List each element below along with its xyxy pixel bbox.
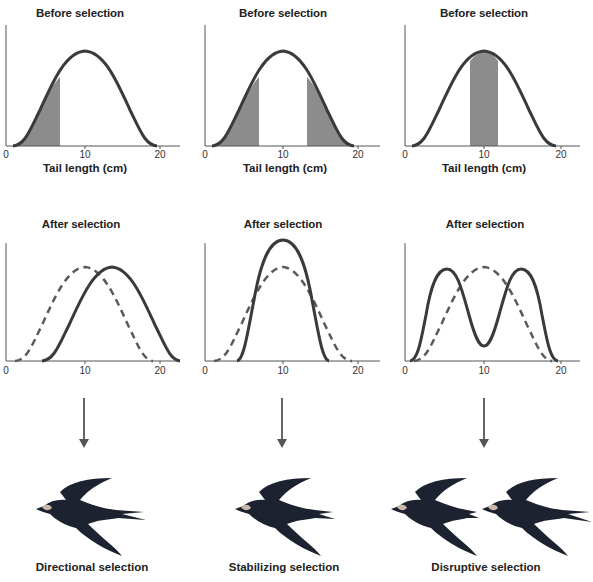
swallow-icon-short-tail [391,478,479,556]
before-chart-stabilizing: 0 10 20 [202,25,380,160]
arrow-down-icon [479,398,489,448]
svg-text:0: 0 [3,365,9,376]
dashed-before-curve [214,267,352,361]
shaded-region-right [307,77,354,146]
selection-diagram: 0 10 20 0 10 20 0 10 20 0 10 20 [0,0,593,582]
after-curve [237,240,329,361]
svg-text:0: 0 [202,365,208,376]
svg-text:20: 20 [352,149,364,160]
swallow-icon [36,478,146,556]
svg-text:20: 20 [555,149,567,160]
after-curve [410,269,558,361]
shaded-region [13,77,60,146]
svg-text:20: 20 [154,365,166,376]
svg-text:10: 10 [478,365,490,376]
svg-text:0: 0 [402,149,408,160]
svg-text:10: 10 [79,149,91,160]
svg-text:10: 10 [478,149,490,160]
svg-text:10: 10 [79,365,91,376]
after-chart-stabilizing: 0 10 20 [202,240,380,376]
after-curve [42,267,180,361]
swallow-icon [235,478,335,556]
svg-text:10: 10 [277,149,289,160]
before-chart-directional: 0 10 20 [3,25,180,160]
swallow-icon-long-tail [482,478,592,556]
svg-text:20: 20 [352,365,364,376]
shaded-region-center [470,52,498,146]
shaded-region-left [212,77,259,146]
after-chart-directional: 0 10 20 [3,243,180,376]
before-chart-disruptive: 0 10 20 [402,25,580,160]
svg-text:0: 0 [3,149,9,160]
svg-text:20: 20 [154,149,166,160]
svg-text:20: 20 [555,365,567,376]
svg-text:0: 0 [402,365,408,376]
svg-text:0: 0 [202,149,208,160]
after-chart-disruptive: 0 10 20 [402,243,580,376]
svg-text:10: 10 [277,365,289,376]
arrow-down-icon [277,398,287,448]
arrow-down-icon [79,398,89,448]
